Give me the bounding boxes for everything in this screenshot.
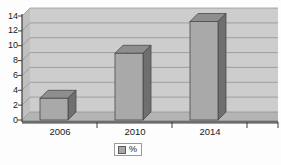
bar-2014[interactable] bbox=[190, 14, 226, 121]
y-tick-label: 2 bbox=[2, 101, 18, 110]
bar-2006-front bbox=[40, 98, 68, 120]
legend-swatch-icon bbox=[118, 146, 126, 154]
left-side-wall bbox=[22, 8, 30, 120]
x-tick-label-2014: 2014 bbox=[190, 126, 230, 137]
y-tick-label: 0 bbox=[2, 116, 18, 125]
x-tick-label-2006: 2006 bbox=[40, 126, 80, 137]
bar-2006[interactable] bbox=[40, 90, 76, 120]
bar-2010-front bbox=[115, 53, 143, 120]
plot-area bbox=[0, 0, 281, 140]
bar-2014-side bbox=[218, 14, 226, 121]
x-tick-label-2010: 2010 bbox=[115, 126, 155, 137]
y-tick-label: 10 bbox=[2, 41, 18, 50]
bar-2014-front bbox=[190, 22, 218, 121]
y-tick-label: 4 bbox=[2, 86, 18, 95]
y-tick-label: 6 bbox=[2, 71, 18, 80]
y-tick-label: 14 bbox=[2, 12, 18, 21]
chart-canvas bbox=[0, 0, 281, 140]
bar-2010-side bbox=[143, 45, 151, 120]
x-axis-labels: 2006 2010 2014 bbox=[0, 126, 281, 142]
y-tick-label: 8 bbox=[2, 56, 18, 65]
bar-chart: 14 12 10 8 6 4 2 0 2006 2010 2014 % bbox=[0, 0, 281, 165]
y-axis-labels: 14 12 10 8 6 4 2 0 bbox=[0, 0, 18, 140]
legend-label: % bbox=[129, 145, 137, 154]
y-tick-label: 12 bbox=[2, 26, 18, 35]
bar-2010[interactable] bbox=[115, 45, 151, 120]
chart-legend[interactable]: % bbox=[114, 143, 142, 156]
